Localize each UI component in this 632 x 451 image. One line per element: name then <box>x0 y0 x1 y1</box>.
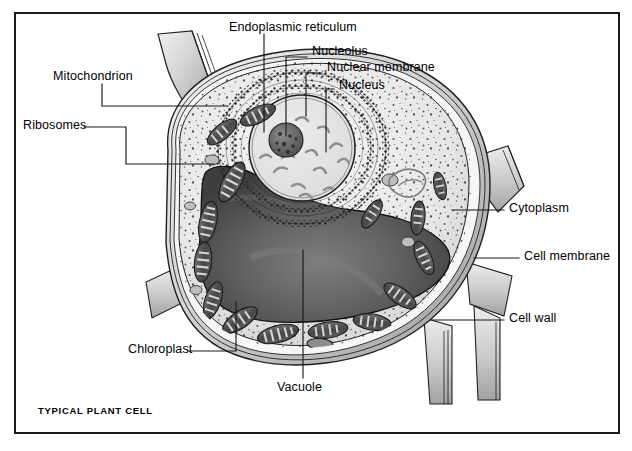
label-mitochondrion: Mitochondrion <box>53 70 133 83</box>
label-chloroplast: Chloroplast <box>128 343 192 356</box>
label-nuclear-membrane: Nuclear membrane <box>327 61 435 74</box>
label-cytoplasm: Cytoplasm <box>509 202 569 215</box>
label-nucleus: Nucleus <box>339 79 385 92</box>
label-vacuole: Vacuole <box>277 381 322 394</box>
label-nucleolus: Nucleolus <box>312 45 368 58</box>
label-endoplasmic-reticulum: Endoplasmic reticulum <box>229 21 357 34</box>
label-cell-wall: Cell wall <box>509 312 556 325</box>
figure-canvas: Endoplasmic reticulum Nucleolus Nuclear … <box>0 0 632 451</box>
label-ribosomes: Ribosomes <box>23 119 86 132</box>
figure-caption: TYPICAL PLANT CELL <box>38 405 153 416</box>
label-cell-membrane: Cell membrane <box>524 250 610 263</box>
